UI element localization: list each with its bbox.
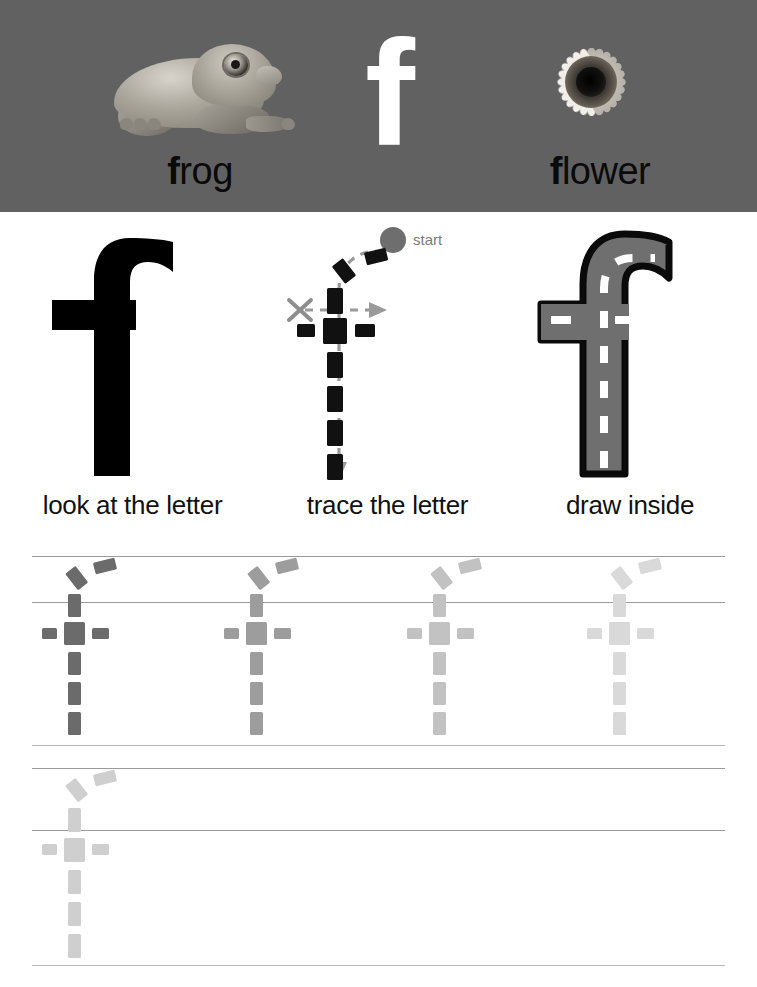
road-f-icon: [505, 218, 755, 486]
frog-image: [96, 32, 306, 142]
practice-area: [0, 544, 757, 987]
word-frog: frog: [60, 152, 340, 190]
road-letter-art: [505, 218, 755, 486]
header-big-letter: f: [330, 18, 450, 168]
dashed-f-practice-icon: [397, 544, 517, 749]
practice-letter[interactable]: [577, 544, 697, 749]
dashed-f-practice-icon: [32, 756, 152, 971]
practice-letter[interactable]: [397, 544, 517, 749]
demo-column-trace: start trace the letter: [265, 212, 510, 544]
word-flower-initial: f: [550, 150, 562, 192]
start-label: start: [413, 232, 442, 247]
worksheet-page: frog f: [0, 0, 757, 987]
word-flower: flower: [470, 152, 730, 190]
caption-look: look at the letter: [10, 492, 255, 518]
trace-letter-art: start: [265, 218, 510, 486]
practice-letter[interactable]: [32, 544, 152, 749]
word-frog-rest: rog: [179, 150, 232, 192]
header-item-flower: flower: [470, 0, 730, 212]
practice-letter[interactable]: [32, 756, 152, 971]
demo-column-look: look at the letter: [10, 212, 255, 544]
dashed-f-icon: [265, 218, 510, 486]
word-frog-initial: f: [167, 150, 179, 192]
header-item-frog: frog: [60, 0, 340, 212]
flower-center: [565, 56, 617, 108]
header-item-letter: f: [330, 0, 450, 212]
caption-trace: trace the letter: [265, 492, 510, 518]
practice-letter[interactable]: [214, 544, 334, 749]
word-flower-rest: lower: [562, 150, 650, 192]
demo-column-draw: draw inside: [505, 212, 755, 544]
dashed-f-strokes: [297, 248, 388, 480]
solid-letter-art: [10, 218, 255, 486]
solid-f-icon: [10, 218, 255, 486]
dashed-f-practice-icon: [577, 544, 697, 749]
caption-draw: draw inside: [505, 492, 755, 518]
flower-image: [516, 16, 666, 148]
dashed-f-practice-icon: [32, 544, 152, 749]
dashed-f-practice-icon: [214, 544, 334, 749]
demo-row: look at the letter: [0, 212, 757, 544]
header-band: frog f: [0, 0, 757, 212]
